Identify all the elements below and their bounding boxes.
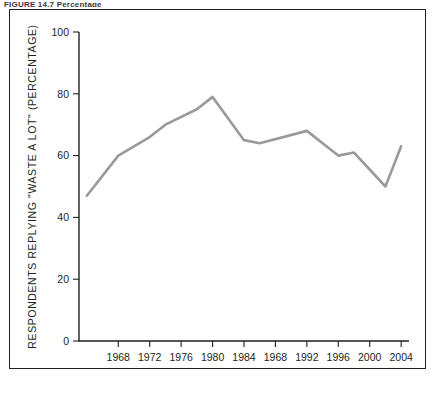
y-tick-label-0: 0	[63, 335, 69, 347]
y-tick-label-60: 60	[57, 149, 69, 161]
chart-frame: 0204060801001968197219761980198419681992…	[9, 9, 426, 369]
line-chart: 0204060801001968197219761980198419681992…	[10, 10, 424, 367]
chart-axes	[79, 32, 409, 341]
x-tick-label-1976: 1976	[169, 351, 193, 363]
x-tick-label-1984: 1984	[232, 351, 256, 363]
x-tick-label-1980: 1980	[201, 351, 225, 363]
y-tick-label-20: 20	[57, 273, 69, 285]
x-tick-label-1968: 1968	[107, 351, 131, 363]
y-tick-label-100: 100	[51, 26, 69, 38]
x-tick-label-2000: 2000	[358, 351, 382, 363]
y-axis-title: RESPONDENTS REPLYING "WASTE A LOT" (PERC…	[26, 24, 38, 348]
data-series-0	[87, 97, 401, 196]
figure-caption-cropped: FIGURE 14.7 Percentage	[4, 0, 204, 7]
x-tick-label-1996: 1996	[327, 351, 351, 363]
figure-root: FIGURE 14.7 Percentage 02040608010019681…	[0, 0, 435, 394]
x-tick-label-1992: 1992	[295, 351, 319, 363]
x-tick-label-1972: 1972	[138, 351, 162, 363]
x-tick-label-1988: 1968	[264, 351, 288, 363]
x-tick-label-2004: 2004	[389, 351, 413, 363]
y-tick-label-80: 80	[57, 88, 69, 100]
y-tick-label-40: 40	[57, 211, 69, 223]
